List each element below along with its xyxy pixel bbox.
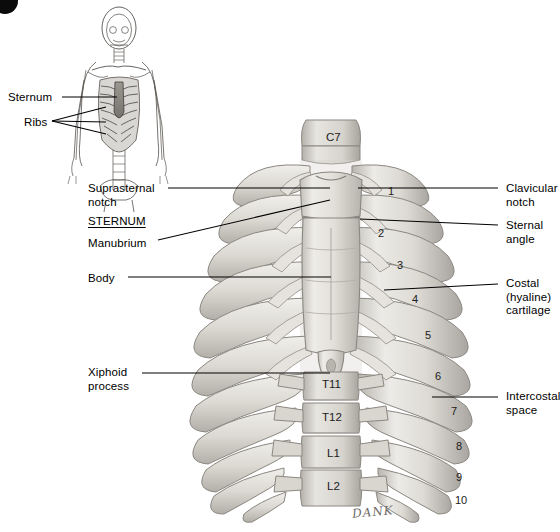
rib-number-9: 9	[456, 472, 462, 483]
rib-number-8: 8	[456, 441, 462, 452]
label-sternal-angle: Sternal angle	[506, 219, 543, 246]
thoracic-cage-art	[128, 120, 498, 522]
rib-number-5: 5	[425, 330, 431, 341]
rib-number-6: 6	[435, 371, 441, 382]
vertebra-label-t11: T11	[322, 379, 341, 391]
label-intercostal-space: Intercostal space	[506, 390, 560, 417]
inset-label-sternum: Sternum	[8, 91, 52, 105]
vertebra-label-l1: L1	[327, 448, 340, 460]
vertebra-label-t12: T12	[322, 412, 342, 424]
rib-number-4: 4	[412, 294, 418, 305]
rib-number-2: 2	[378, 228, 384, 239]
rib-number-1: 1	[388, 186, 394, 197]
label-xiphoid-process: Xiphoid process	[88, 366, 129, 393]
rib-number-3: 3	[397, 260, 403, 271]
vertebra-label-c7: C7	[326, 132, 341, 144]
label-body: Body	[88, 272, 115, 286]
label-costal-cartilage: Costal (hyaline) cartilage	[506, 277, 551, 318]
rib-number-10: 10	[455, 495, 467, 506]
inset-label-ribs: Ribs	[24, 116, 47, 130]
label-suprasternal-notch: Suprasternal notch	[88, 182, 155, 209]
label-manubrium: Manubrium	[88, 237, 147, 251]
vertebra-label-l2: L2	[327, 481, 340, 493]
label-clavicular-notch: Clavicular notch	[506, 182, 558, 209]
rib-number-7: 7	[451, 406, 457, 417]
label-sternum-heading: STERNUM	[88, 215, 146, 229]
